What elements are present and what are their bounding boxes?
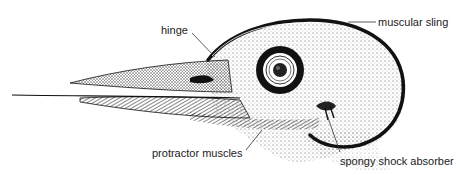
lower-beak [80, 97, 250, 118]
label-spongy-shock-absorber: spongy shock absorber [340, 155, 454, 167]
eye [256, 46, 304, 94]
hinge-leader-line [192, 33, 215, 57]
label-muscular-sling: muscular sling [378, 16, 448, 28]
label-hinge: hinge [161, 24, 188, 36]
upper-beak [70, 60, 232, 92]
woodpecker-head-diagram: hinge muscular sling protractor muscles … [0, 0, 460, 175]
label-protractor-muscles: protractor muscles [152, 147, 242, 159]
